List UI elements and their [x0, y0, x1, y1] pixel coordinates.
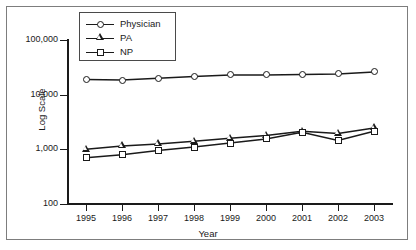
- data-point-physician: [83, 76, 90, 83]
- legend-label-pa: PA: [115, 33, 132, 43]
- x-tick-label: 2002: [318, 213, 358, 223]
- y-tick-label: 1,000: [4, 144, 58, 153]
- data-point-physician: [227, 71, 234, 78]
- x-tick: [374, 205, 375, 211]
- y-tick-label: 10,000: [4, 90, 58, 99]
- x-tick: [194, 205, 195, 211]
- plot-area: [68, 40, 392, 204]
- x-tick-label: 1998: [174, 213, 214, 223]
- data-point-np: [155, 147, 162, 154]
- x-axis-title: Year: [0, 228, 416, 239]
- data-point-np: [191, 144, 198, 151]
- y-axis-title: Log Scale: [36, 65, 47, 155]
- x-tick: [158, 205, 159, 211]
- x-tick-label: 1999: [210, 213, 250, 223]
- x-tick: [230, 205, 231, 211]
- data-point-physician: [191, 73, 198, 80]
- x-tick-label: 2003: [354, 213, 394, 223]
- square-marker-icon: [85, 46, 115, 58]
- data-point-np: [263, 135, 270, 142]
- data-point-physician: [119, 77, 126, 84]
- data-point-physician: [263, 71, 270, 78]
- x-tick: [338, 205, 339, 211]
- x-tick: [86, 205, 87, 211]
- chart-legend: Physician PA NP: [79, 12, 176, 61]
- x-tick-label: 2000: [246, 213, 286, 223]
- chart-figure: 100,00010,0001,000100 199519961997199819…: [0, 0, 416, 250]
- x-tick-label: 1997: [138, 213, 178, 223]
- data-point-np: [119, 151, 126, 158]
- data-point-physician: [155, 75, 162, 82]
- x-tick-label: 1995: [66, 213, 106, 223]
- y-tick-label: 100: [4, 199, 58, 208]
- x-tick-label: 1996: [102, 213, 142, 223]
- data-point-pa: [82, 145, 90, 152]
- y-tick-label: 100,000: [4, 35, 58, 44]
- data-point-pa: [154, 139, 162, 146]
- legend-entry-pa: PA: [85, 31, 170, 45]
- x-tick: [266, 205, 267, 211]
- legend-label-physician: Physician: [115, 19, 161, 29]
- x-tick-label: 2001: [282, 213, 322, 223]
- data-point-np: [83, 154, 90, 161]
- data-point-np: [335, 137, 342, 144]
- y-tick: [60, 95, 68, 96]
- data-point-np: [227, 140, 234, 147]
- y-tick: [60, 149, 68, 150]
- circle-marker-icon: [85, 18, 115, 30]
- x-tick: [122, 205, 123, 211]
- legend-entry-np: NP: [85, 45, 170, 59]
- data-point-physician: [335, 70, 342, 77]
- triangle-marker-icon: [85, 32, 115, 44]
- y-tick: [60, 204, 68, 205]
- data-point-physician: [299, 71, 306, 78]
- legend-entry-physician: Physician: [85, 17, 170, 31]
- data-point-np: [371, 128, 378, 135]
- x-tick: [302, 205, 303, 211]
- data-point-np: [299, 129, 306, 136]
- series-polylines: [68, 40, 392, 204]
- data-point-pa: [334, 129, 342, 136]
- y-tick: [60, 40, 68, 41]
- legend-label-np: NP: [115, 47, 133, 57]
- data-point-pa: [118, 141, 126, 148]
